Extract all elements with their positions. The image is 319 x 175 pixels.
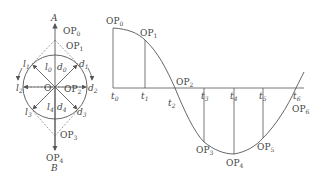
curve-op4-label: OP4 [226, 158, 243, 169]
circle-op3-label: OP3 [60, 130, 77, 141]
circle-op0-label: OP0 [63, 26, 80, 37]
label-b: B [50, 163, 58, 173]
label-d2: d2 [88, 83, 98, 94]
circle-op2-label: OP2 [64, 84, 81, 95]
label-l0: l0 [45, 62, 52, 73]
label-o: O [44, 83, 51, 93]
label-l1: l1 [23, 59, 30, 70]
curve-op1-label: OP1 [140, 28, 157, 39]
label-d3: d3 [77, 107, 87, 118]
rotation-arrow-right-icon [88, 68, 92, 80]
label-l2: l2 [16, 83, 23, 94]
label-t1: t1 [141, 91, 148, 102]
curve-op5-label: OP5 [257, 142, 274, 153]
label-d1: d1 [79, 59, 89, 70]
curve-diagram: OP0 OP1 OP2 OP3 OP4 OP5 OP6 t0 t1 t2 t3 … [106, 16, 309, 169]
diagram-canvas: A B O OP0 OP1 OP2 OP3 OP4 l0 l1 l2 l3 l4… [0, 0, 319, 175]
label-t3: t3 [201, 91, 209, 102]
label-d4: d4 [57, 102, 67, 113]
circle-op1-label: OP1 [66, 41, 83, 52]
circle-op4-label: OP4 [46, 153, 63, 164]
label-t0: t0 [111, 91, 119, 102]
curve-op2-label: OP2 [176, 77, 193, 88]
label-t6: t6 [293, 91, 301, 102]
circle-diagram: A B O OP0 OP1 OP2 OP3 OP4 l0 l1 l2 l3 l4… [16, 13, 98, 173]
label-t2: t2 [168, 98, 176, 109]
rotation-arrow-left-icon [18, 68, 22, 80]
curve-op6-label: OP6 [292, 104, 309, 115]
label-d0: d0 [57, 62, 67, 73]
curve-op0-label: OP0 [106, 16, 123, 27]
label-l4: l4 [47, 102, 54, 113]
label-a: A [50, 13, 58, 23]
